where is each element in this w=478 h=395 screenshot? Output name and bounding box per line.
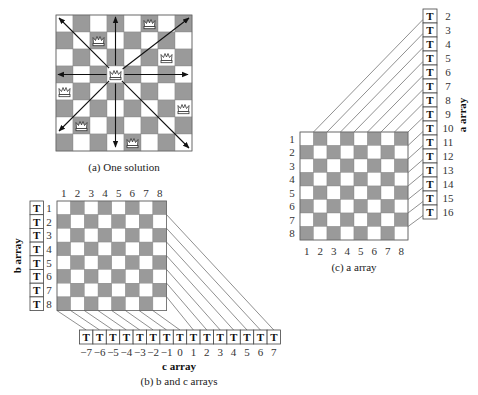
- diagonal-connector: [153, 311, 180, 330]
- row-label: 5: [46, 257, 52, 269]
- svg-text:T: T: [33, 243, 41, 255]
- diagonal-connector: [112, 311, 140, 330]
- board-cell: [57, 215, 71, 229]
- row-label: 8: [289, 227, 295, 239]
- diagonal-connector: [167, 228, 261, 330]
- board-cell: [141, 83, 158, 100]
- board-cell: [139, 297, 153, 311]
- svg-text:T: T: [83, 331, 91, 343]
- c-array-index: −7: [80, 346, 92, 358]
- board-cell: [368, 159, 382, 173]
- diagonal-connector: [98, 311, 126, 330]
- board-cell: [84, 256, 98, 270]
- board-cell: [314, 173, 328, 187]
- c-array-index: 6: [258, 346, 264, 358]
- c-array-cell: T: [200, 330, 213, 344]
- svg-text:T: T: [426, 108, 434, 120]
- board-cell: [395, 173, 409, 187]
- figure-canvas: (a) One solution 1234567812345678TTTTTTT…: [0, 0, 478, 395]
- board-cell: [300, 159, 314, 173]
- diagonal-connector: [408, 216, 423, 227]
- board-cell: [327, 132, 341, 146]
- board-cell: [57, 201, 71, 215]
- board-cell: [56, 100, 73, 117]
- caption-one-solution: (a) One solution: [88, 161, 160, 174]
- board-cell: [368, 146, 382, 160]
- row-label: 3: [46, 229, 52, 241]
- svg-text:T: T: [426, 24, 434, 36]
- board-cell: [314, 159, 328, 173]
- row-label: 8: [46, 298, 52, 310]
- diagonal-connector: [341, 48, 424, 133]
- diagonal-connector: [408, 188, 423, 200]
- c-array-index: 5: [244, 346, 250, 358]
- board-cell: [153, 242, 167, 256]
- c-array-index: 0: [177, 346, 183, 358]
- board-cell: [158, 15, 175, 32]
- board-cell: [327, 173, 341, 187]
- board-cell: [175, 49, 192, 66]
- column-label: 4: [345, 245, 351, 257]
- c-array-index: −2: [147, 346, 159, 358]
- board-cell: [381, 146, 395, 160]
- board-cell: [381, 159, 395, 173]
- svg-text:T: T: [426, 66, 434, 78]
- board-cell: [341, 186, 355, 200]
- board-cell: [126, 215, 140, 229]
- svg-text:T: T: [426, 136, 434, 148]
- board-cell: [84, 215, 98, 229]
- caption-b-and-c-arrays: (b) b and c arrays: [141, 375, 218, 388]
- row-label: 4: [46, 243, 52, 255]
- b-array-cell: T: [30, 201, 44, 215]
- board-cell: [124, 100, 141, 117]
- board-cell: [327, 227, 341, 241]
- b-array-cell: T: [30, 228, 44, 242]
- row-label: 5: [289, 187, 295, 199]
- svg-text:T: T: [230, 331, 238, 343]
- board-cell: [71, 201, 85, 215]
- row-label: 2: [289, 146, 295, 158]
- diagonal-connector: [408, 174, 423, 187]
- row-label: 1: [46, 202, 52, 214]
- a-array-index: 11: [443, 136, 454, 148]
- board-cell: [141, 49, 158, 66]
- board-cell: [354, 173, 368, 187]
- c-array-cell: T: [240, 330, 253, 344]
- board-cell: [153, 215, 167, 229]
- b-array-cell: T: [30, 283, 44, 297]
- board-cell: [57, 270, 71, 284]
- board-cell: [98, 215, 112, 229]
- board-cell: [71, 242, 85, 256]
- board-cell: [395, 186, 409, 200]
- diagonal-connector: [167, 215, 274, 330]
- board-cell: [314, 213, 328, 227]
- board-cell: [327, 186, 341, 200]
- c-array-cell: T: [80, 330, 93, 344]
- c-array-label: c array: [162, 360, 196, 372]
- column-label: 3: [89, 187, 95, 199]
- a-array-cell: T: [423, 149, 437, 163]
- diagonal-connector: [408, 160, 423, 173]
- board-cell: [153, 228, 167, 242]
- board-cell: [327, 213, 341, 227]
- row-label: 3: [289, 160, 295, 172]
- svg-text:T: T: [163, 331, 171, 343]
- c-array-index: −6: [94, 346, 106, 358]
- board-cell: [73, 134, 90, 151]
- svg-text:T: T: [426, 10, 434, 22]
- board-cell: [341, 132, 355, 146]
- diagonal-connector: [381, 90, 423, 133]
- board-cell: [112, 215, 126, 229]
- board-cell: [139, 201, 153, 215]
- row-label: 2: [46, 216, 52, 228]
- svg-text:T: T: [270, 331, 278, 343]
- svg-text:T: T: [190, 331, 198, 343]
- diagonal-connector: [408, 118, 423, 133]
- c-array-index: −5: [107, 346, 119, 358]
- row-label: 4: [289, 173, 295, 185]
- row-label: 6: [46, 270, 52, 282]
- board-cell: [139, 270, 153, 284]
- column-label: 4: [102, 187, 108, 199]
- panel-a-array: 1234567812345678TTTTTTTTTTTTTTT234567891…: [289, 9, 468, 274]
- row-label: 7: [46, 284, 52, 296]
